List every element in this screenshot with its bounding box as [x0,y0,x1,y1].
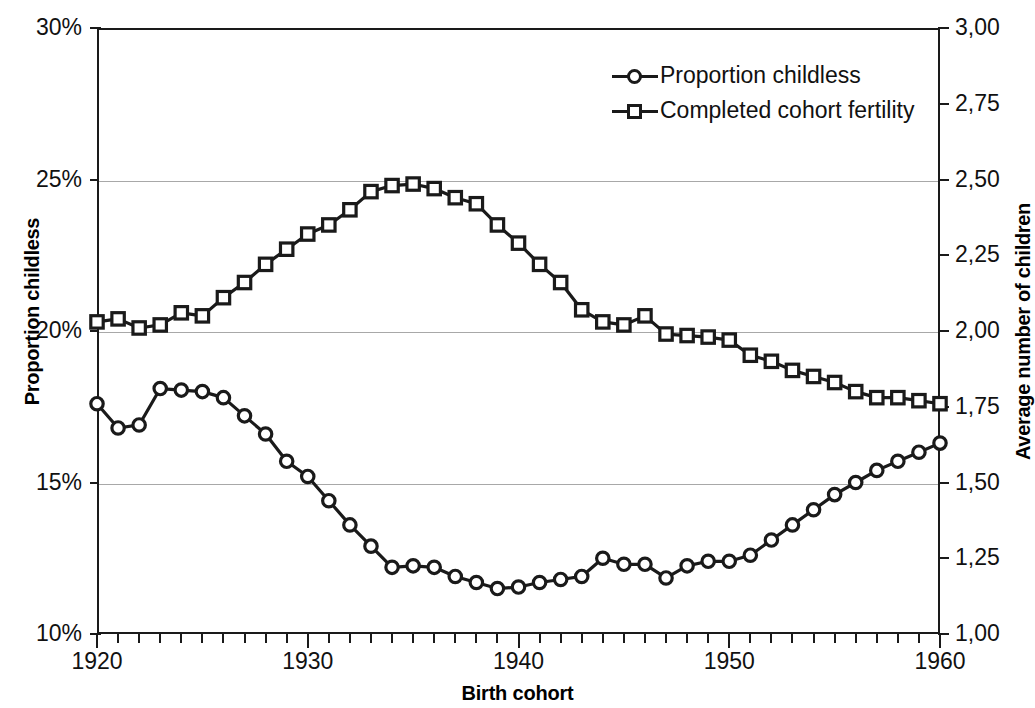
legend-label-proportion-childless: Proportion childless [660,64,861,87]
x-axis-minor-tick [623,634,625,643]
gridline [99,332,938,333]
y-axis-right-tick-label: 2,75 [955,92,1035,115]
x-axis-minor-tick [644,634,646,643]
legend-item-proportion-childless[interactable]: Proportion childless [612,58,914,93]
x-axis-major-tick [307,634,309,648]
x-axis-major-tick [728,634,730,648]
y-axis-right-tick-label: 1,25 [955,546,1035,569]
x-axis-minor-tick [834,634,836,643]
x-axis-minor-tick [791,634,793,643]
x-axis-minor-tick [201,634,203,643]
x-axis-minor-tick [391,634,393,643]
x-axis-minor-tick [328,634,330,643]
y-axis-left-title: Proportion childless [21,172,44,452]
legend-label-completed-cohort-fertility: Completed cohort fertility [660,99,914,122]
y-axis-left-tick-label: 30% [0,16,82,39]
x-axis-title: Birth cohort [0,682,1035,705]
x-axis-minor-tick [117,634,119,643]
legend-marker-square-icon [612,101,658,121]
x-axis-minor-tick [286,634,288,643]
x-axis-minor-tick [707,634,709,643]
x-axis-minor-tick [496,634,498,643]
x-axis-minor-tick [897,634,899,643]
x-axis-tick-label: 1930 [263,650,353,673]
y-axis-left-tick-label: 15% [0,471,82,494]
x-axis-minor-tick [665,634,667,643]
x-axis-minor-tick [433,634,435,643]
legend-marker-circle-icon [612,66,658,86]
x-axis-minor-tick [876,634,878,643]
legend-item-completed-cohort-fertility[interactable]: Completed cohort fertility [612,93,914,128]
x-axis-minor-tick [265,634,267,643]
y-axis-left-tick-label: 10% [0,622,82,645]
x-axis-minor-tick [454,634,456,643]
x-axis-minor-tick [180,634,182,643]
x-axis-major-tick [96,634,98,648]
x-axis-tick-label: 1950 [684,650,774,673]
y-axis-right-title: Average number of children [1012,167,1035,497]
x-axis-tick-label: 1940 [474,650,564,673]
x-axis-minor-tick [412,634,414,643]
x-axis-tick-label: 1960 [895,650,985,673]
x-axis-minor-tick [159,634,161,643]
x-axis-minor-tick [918,634,920,643]
gridline [99,484,938,485]
x-axis-minor-tick [602,634,604,643]
chart-legend: Proportion childless Completed cohort fe… [612,58,914,128]
x-axis-minor-tick [349,634,351,643]
x-axis-minor-tick [813,634,815,643]
gridline [99,181,938,182]
y-axis-right-tick-label: 1,00 [955,622,1035,645]
x-axis-minor-tick [370,634,372,643]
x-axis-minor-tick [855,634,857,643]
x-axis-minor-tick [686,634,688,643]
x-axis-minor-tick [749,634,751,643]
x-axis-minor-tick [222,634,224,643]
x-axis-minor-tick [539,634,541,643]
x-axis-minor-tick [560,634,562,643]
chart-figure: 10%15%20%25%30% 1,001,251,501,752,002,25… [0,0,1035,708]
x-axis-minor-tick [244,634,246,643]
x-axis-major-tick [518,634,520,648]
y-axis-right-tick-label: 3,00 [955,16,1035,39]
x-axis-minor-tick [138,634,140,643]
x-axis-major-tick [939,634,941,648]
x-axis-tick-label: 1920 [52,650,142,673]
x-axis-minor-tick [770,634,772,643]
x-axis-minor-tick [581,634,583,643]
x-axis-minor-tick [475,634,477,643]
